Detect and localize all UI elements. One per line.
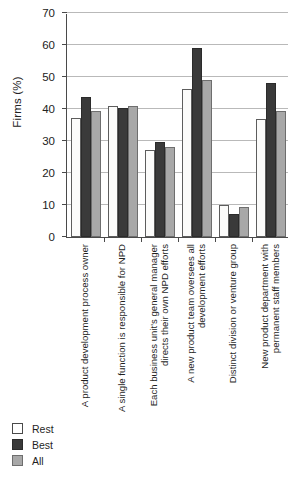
legend-label: Best (32, 439, 53, 451)
bar-group (252, 14, 289, 237)
y-axis-tick-label: 10 (42, 199, 55, 211)
bar-rest (219, 205, 229, 237)
bar-rest (71, 118, 81, 237)
legend-swatch (12, 439, 23, 450)
bar-all (91, 111, 101, 237)
y-axis-tick-label: 70 (42, 7, 55, 19)
bar-best (266, 83, 276, 237)
bar-all (165, 147, 175, 237)
bar-rest (256, 119, 266, 237)
x-axis-category-label: A product development process owner (79, 244, 90, 412)
bar-chart-figure: Firms (%) 010203040506070 A product deve… (0, 0, 297, 480)
legend-item-all: All (12, 454, 54, 467)
x-axis-tick (252, 237, 253, 242)
chart-legend: RestBestAll (12, 422, 54, 467)
bar-group (67, 14, 104, 237)
y-axis-tick: 70 (62, 12, 67, 13)
y-axis-tick-label: 40 (42, 103, 55, 115)
x-axis-tick (141, 237, 142, 242)
x-axis-label-slot: Each business unit's general manager dir… (140, 244, 177, 416)
bar-all (239, 207, 249, 237)
bar-best (155, 142, 165, 237)
x-axis-category-label: Each business unit's general manager dir… (147, 244, 170, 412)
bar-group (215, 14, 252, 237)
x-axis-category-label: A new product team oversees all developm… (184, 244, 207, 412)
x-axis-category-label: New product department with permanent st… (258, 244, 281, 412)
y-axis-tick-label: 20 (42, 167, 55, 179)
gridline (67, 12, 288, 13)
x-axis-category-labels: A product development process ownerA sin… (66, 244, 288, 416)
x-axis-label-slot: Distinct division or venture group (214, 244, 251, 416)
x-axis-label-slot: New product department with permanent st… (251, 244, 288, 416)
legend-item-best: Best (12, 438, 54, 451)
plot-area: 010203040506070 (66, 14, 288, 238)
x-axis-category-label: Distinct division or venture group (227, 244, 238, 412)
bar-all (202, 80, 212, 237)
legend-label: All (32, 455, 44, 467)
legend-swatch (12, 423, 23, 434)
bar-rest (182, 89, 192, 237)
y-axis-tick-label: 50 (42, 71, 55, 83)
y-axis-tick-label: 30 (42, 135, 55, 147)
bar-all (128, 106, 138, 237)
x-axis-label-slot: A new product team oversees all developm… (177, 244, 214, 416)
y-axis-tick-label: 60 (42, 39, 55, 51)
bar-group (141, 14, 178, 237)
legend-item-rest: Rest (12, 422, 54, 435)
x-axis-tick (178, 237, 179, 242)
y-axis-title: Firms (%) (11, 56, 23, 148)
bar-best (118, 108, 128, 237)
bar-all (276, 111, 286, 237)
bar-best (229, 214, 239, 237)
y-axis-tick-label: 0 (49, 231, 55, 243)
legend-label: Rest (32, 423, 54, 435)
x-axis-tick (215, 237, 216, 242)
legend-swatch (12, 455, 23, 466)
x-axis-label-slot: A product development process owner (66, 244, 103, 416)
bar-group (178, 14, 215, 237)
bar-rest (145, 150, 155, 237)
bar-best (192, 48, 202, 237)
x-axis-tick (104, 237, 105, 242)
bar-rest (108, 106, 118, 237)
bar-best (81, 97, 91, 237)
x-axis-category-label: A single function is responsible for NPD (116, 244, 127, 412)
x-axis-label-slot: A single function is responsible for NPD (103, 244, 140, 416)
bar-group (104, 14, 141, 237)
